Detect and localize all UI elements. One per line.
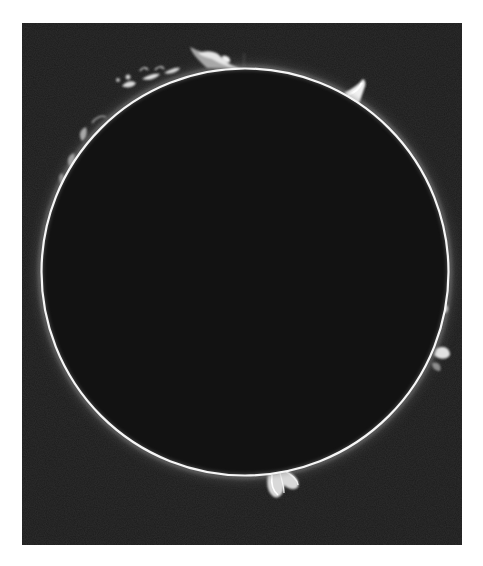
sun-disk-graphic [22,23,462,545]
page: Black-and-white photograph of the Sun's … [0,0,483,566]
solar-photograph [22,23,462,545]
solar-disk [42,69,448,475]
